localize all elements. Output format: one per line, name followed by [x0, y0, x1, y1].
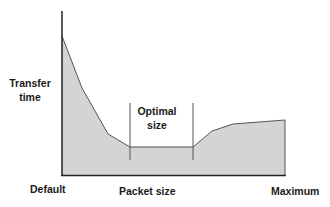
y-axis-label-line2: time	[6, 90, 54, 104]
x-axis-label: Packet size	[119, 184, 176, 198]
y-axis-label-line1: Transfer	[6, 76, 54, 90]
x-tick-maximum: Maximum	[271, 184, 319, 198]
y-axis-label: Transfer time	[6, 76, 54, 104]
optimal-label-line1: Optimal	[132, 104, 182, 118]
optimal-size-annotation: Optimal size	[132, 104, 182, 132]
optimal-label-line2: size	[132, 118, 182, 132]
x-tick-default: Default	[30, 182, 66, 196]
